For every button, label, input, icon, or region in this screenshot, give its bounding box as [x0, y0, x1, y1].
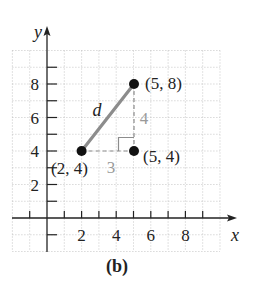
point-label-2-4: (2, 4): [51, 159, 88, 178]
x-tick-label-4: 4: [112, 226, 121, 245]
x-ticks: [30, 211, 203, 218]
point-label-5-8: (5, 8): [145, 74, 182, 93]
x-tick-label-8: 8: [181, 226, 190, 245]
y-tick-labels: 8 6 4 2: [31, 75, 40, 195]
vertical-leg-label: 4: [140, 109, 149, 128]
y-ticks: [47, 67, 57, 235]
distance-diagram: 8 6 4 2 2 4 6 8 x y 3 4 d: [0, 0, 253, 284]
point-2-4: [77, 146, 87, 156]
y-axis-label: y: [32, 22, 42, 42]
point-5-8: [129, 79, 139, 89]
point-label-5-4: (5, 4): [143, 147, 180, 166]
grid: [12, 51, 220, 252]
point-5-4: [129, 146, 139, 156]
segment-d: [82, 84, 134, 151]
x-tick-label-2: 2: [77, 226, 86, 245]
x-tick-label-6: 6: [147, 226, 156, 245]
figure-caption: (b): [106, 256, 128, 277]
y-tick-label-2: 2: [31, 176, 40, 195]
coordinate-plane: 8 6 4 2 2 4 6 8 x y 3 4 d: [0, 0, 253, 284]
horizontal-leg-label: 3: [107, 158, 116, 177]
y-tick-label-4: 4: [31, 142, 40, 161]
y-tick-label-6: 6: [31, 109, 40, 128]
axes: [12, 33, 230, 252]
x-tick-labels: 2 4 6 8: [77, 226, 189, 245]
y-tick-label-8: 8: [31, 75, 40, 94]
segment-label-d: d: [93, 100, 103, 120]
x-axis-label: x: [230, 225, 239, 245]
